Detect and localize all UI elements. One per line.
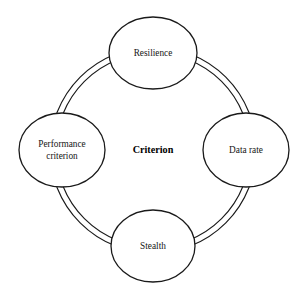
node-performance-criterion-label-line2: criterion: [46, 151, 78, 161]
diagram-canvas: Resilience Data rate Stealth Performance…: [0, 0, 305, 300]
node-resilience-label: Resilience: [134, 48, 173, 58]
node-data-rate-label: Data rate: [229, 145, 263, 155]
criterion-circular-diagram: Resilience Data rate Stealth Performance…: [0, 0, 305, 300]
node-stealth-label: Stealth: [140, 241, 166, 251]
node-performance-criterion-label-line1: Performance: [38, 139, 86, 149]
node-performance-criterion[interactable]: Performance criterion: [19, 113, 105, 187]
node-resilience[interactable]: Resilience: [109, 17, 197, 89]
node-stealth[interactable]: Stealth: [111, 210, 195, 282]
node-performance-criterion-shape[interactable]: [19, 113, 105, 187]
node-data-rate[interactable]: Data rate: [203, 113, 289, 187]
center-label: Criterion: [133, 144, 174, 155]
